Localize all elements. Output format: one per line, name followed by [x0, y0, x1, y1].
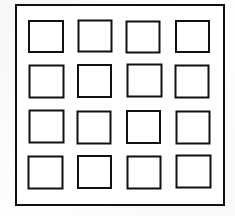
grid-square — [175, 20, 210, 53]
grid-square — [175, 65, 210, 99]
grid-square — [77, 64, 112, 98]
grid-square — [28, 20, 64, 53]
grid-square — [176, 111, 211, 145]
grid-square — [77, 111, 112, 145]
grid-square — [28, 156, 64, 190]
square-grid — [17, 6, 223, 204]
grid-square — [127, 64, 163, 98]
figure-canvas — [0, 0, 235, 216]
grid-square — [127, 156, 162, 190]
grid-square — [78, 20, 113, 53]
grid-square — [77, 155, 112, 189]
grid-square — [29, 110, 65, 144]
grid-square — [126, 110, 161, 144]
grid-square — [126, 21, 161, 54]
grid-square — [29, 65, 65, 99]
grid-square — [176, 155, 212, 189]
outer-frame-rectangle — [15, 4, 225, 206]
